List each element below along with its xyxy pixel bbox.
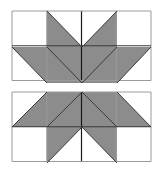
quilt-pattern-figure	[0, 0, 162, 173]
top-tile-pattern	[12, 11, 151, 83]
bottom-tile-pattern	[12, 92, 151, 163]
